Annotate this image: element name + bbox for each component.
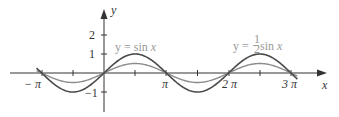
- y-axis-arrow-icon: [101, 9, 108, 19]
- y-axis-label: y: [110, 3, 117, 17]
- svg-text:y =: y =: [233, 39, 249, 53]
- y-tick-label-neg1: −1: [85, 86, 98, 100]
- x-tick-label-3pi: 3 π: [281, 77, 298, 91]
- x-axis-arrow-icon: [317, 70, 327, 77]
- x-axis-label: x: [321, 78, 328, 92]
- svg-text:sin x: sin x: [260, 39, 283, 53]
- y-tick-label-1: 1: [89, 47, 95, 61]
- x-tick-label-pi: π: [162, 77, 169, 91]
- x-tick-label-2pi: 2 π: [222, 77, 238, 91]
- x-tick-label-neg-pi: − π: [24, 77, 42, 91]
- sine-curve-label: y = sin x: [115, 40, 157, 54]
- y-tick-label-2: 2: [89, 28, 95, 42]
- sine-graph: y x 2 1 −1 − π π 2 π 3 π y = sin x y = 1…: [0, 0, 339, 117]
- half-sine-curve-label: y = 1 2 sin x: [233, 32, 283, 56]
